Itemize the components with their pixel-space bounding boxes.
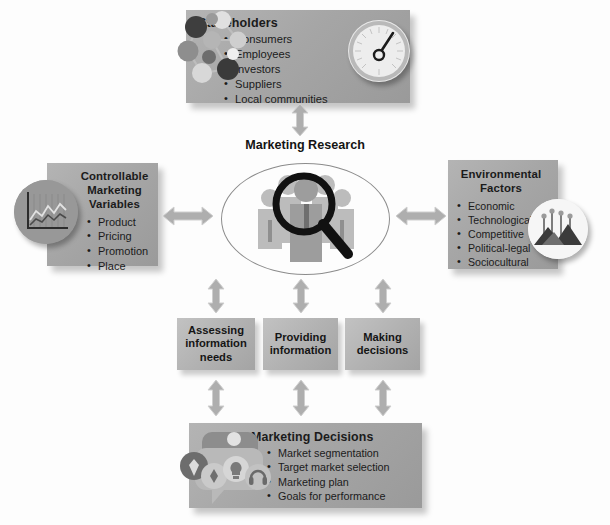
- list-item: Pricing: [87, 229, 158, 244]
- process-line: information: [185, 337, 247, 350]
- process-box-providing-information: Providing information: [263, 318, 338, 370]
- list-item: Product: [87, 215, 158, 230]
- environmental-title-line: Environmental: [448, 168, 554, 182]
- process-line: Assessing: [185, 324, 247, 337]
- connector-environmental-research: [396, 205, 446, 227]
- line-chart-icon: [14, 180, 78, 244]
- list-item: Place: [87, 259, 158, 274]
- page-title: Marketing Research: [0, 138, 610, 152]
- gauge-dial-icon: [348, 20, 410, 82]
- list-item: Target market selection: [267, 460, 422, 474]
- controllable-list: Product Pricing Promotion Place: [87, 215, 158, 274]
- connector-making-decisions: [374, 380, 392, 416]
- process-line: Making: [357, 331, 409, 344]
- connector-assessing-decisions: [207, 380, 225, 416]
- process-line: information: [270, 344, 332, 357]
- speech-bubbles-icon: [178, 424, 274, 510]
- list-item: Market segmentation: [267, 446, 422, 460]
- headset-icon: [245, 464, 271, 490]
- list-item: Promotion: [87, 244, 158, 259]
- process-line: Providing: [270, 331, 332, 344]
- connector-research-providing: [292, 279, 310, 313]
- connector-controllable-research: [163, 205, 213, 227]
- connector-research-making: [374, 279, 392, 313]
- list-item: Sociocultural: [457, 255, 558, 269]
- connector-providing-decisions: [292, 380, 310, 416]
- process-box-assessing-information-needs: Assessing information needs: [177, 318, 255, 370]
- list-item: Marketing plan: [267, 475, 422, 489]
- node-marketing-research: [221, 163, 390, 275]
- process-line: decisions: [357, 344, 409, 357]
- mountain-flags-icon: [528, 199, 588, 259]
- connector-research-assessing: [207, 279, 225, 313]
- process-line: needs: [185, 351, 247, 364]
- environmental-title-line: Factors: [448, 182, 554, 196]
- controllable-title-line: Controllable: [71, 170, 158, 184]
- process-box-making-decisions: Making decisions: [345, 318, 420, 370]
- connector-stakeholders-research: [291, 104, 309, 136]
- environmental-title: Environmental Factors: [448, 168, 558, 196]
- network-people-icon: [176, 7, 254, 95]
- decisions-list: Market segmentation Target market select…: [267, 446, 422, 503]
- controllable-title-line: Marketing: [71, 184, 158, 198]
- diagram-canvas: Stakeholders Consumers Employees Investo…: [0, 0, 610, 525]
- list-item: Goals for performance: [267, 489, 422, 503]
- crowd-magnifier-icon: [222, 164, 389, 274]
- controllable-title-line: Variables: [71, 198, 158, 212]
